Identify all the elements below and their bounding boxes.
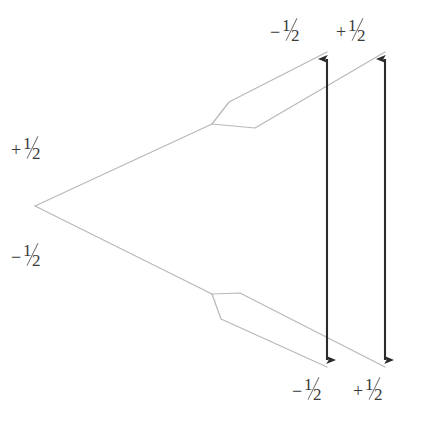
upper-main-branch bbox=[35, 124, 212, 206]
fraction-sign: − bbox=[292, 382, 302, 400]
fraction-denominator: 2 bbox=[313, 386, 322, 403]
fraction-denominator: 2 bbox=[291, 27, 300, 44]
fraction-sign: − bbox=[270, 23, 280, 41]
label-bottom-right: + 1 2 bbox=[364, 377, 386, 403]
transition-arrows-group bbox=[327, 59, 385, 360]
lower-sublevel-plus-half-line bbox=[212, 293, 385, 367]
fraction-minus-one-half: − 1 2 bbox=[281, 18, 303, 44]
fraction-sign: + bbox=[353, 382, 363, 400]
fraction-denominator: 2 bbox=[357, 27, 366, 44]
fraction-sign: + bbox=[336, 23, 346, 41]
label-bottom-left: − 1 2 bbox=[303, 377, 325, 403]
lower-sublevel-minus-half-line bbox=[212, 294, 327, 367]
energy-level-diagram: − 1 2 + 1 2 + 1 2 − 1 2 − bbox=[0, 0, 430, 424]
fraction-sign: + bbox=[11, 141, 21, 159]
fraction-minus-one-half: − 1 2 bbox=[303, 377, 325, 403]
upper-sublevel-plus-half-line bbox=[212, 52, 385, 128]
fraction-plus-one-half: + 1 2 bbox=[347, 18, 369, 44]
label-upper-branch: + 1 2 bbox=[22, 136, 44, 162]
upper-sublevel-minus-half-line bbox=[212, 52, 327, 124]
fraction-plus-one-half: + 1 2 bbox=[22, 136, 44, 162]
fraction-plus-one-half: + 1 2 bbox=[364, 377, 386, 403]
fraction-denominator: 2 bbox=[32, 252, 41, 269]
fraction-minus-one-half: − 1 2 bbox=[22, 243, 44, 269]
label-top-left: − 1 2 bbox=[281, 18, 303, 44]
label-top-right: + 1 2 bbox=[347, 18, 369, 44]
fraction-denominator: 2 bbox=[374, 386, 383, 403]
lower-main-branch bbox=[35, 206, 212, 294]
fraction-sign: − bbox=[11, 248, 21, 266]
fraction-denominator: 2 bbox=[32, 145, 41, 162]
branch-lines-group bbox=[35, 52, 385, 367]
label-lower-branch: − 1 2 bbox=[22, 243, 44, 269]
diagram-canvas bbox=[0, 0, 430, 424]
